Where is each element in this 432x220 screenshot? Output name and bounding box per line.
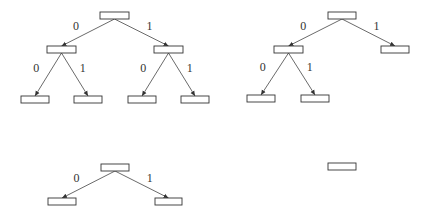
edge-label: 1: [307, 60, 313, 74]
edge-arrow-full-depth-2-tree-root-n1: [115, 19, 169, 46]
edge-arrow-partial-tree-root-n1: [342, 19, 395, 46]
edge-arrow-full-depth-2-tree-n1-n10: [142, 53, 169, 96]
edge-label: 0: [74, 171, 80, 185]
edge-arrow-partial-tree-root-n0: [289, 19, 343, 46]
tree-node-partial-tree-root: [328, 12, 356, 19]
tree-node-full-depth-2-tree-n10: [128, 96, 156, 103]
edge-label: 0: [73, 19, 79, 33]
tree-node-depth-1-tree-n0: [48, 198, 76, 205]
tree-node-partial-tree-n0: [274, 46, 303, 53]
edge-label: 1: [80, 61, 86, 75]
tree-node-depth-1-tree-root: [101, 164, 129, 171]
binary-trees-diagram: 010101010101: [0, 0, 432, 220]
edge-label: 0: [260, 60, 266, 74]
edge-arrow-depth-1-tree-root-n0: [62, 171, 115, 198]
tree-node-full-depth-2-tree-n0: [47, 46, 76, 53]
tree-node-full-depth-2-tree-n01: [74, 96, 102, 103]
edge-label: 0: [140, 61, 146, 75]
edge-arrow-full-depth-2-tree-n0-n00: [35, 53, 62, 96]
tree-node-full-depth-2-tree-root: [100, 12, 129, 19]
tree-node-partial-tree-n00: [247, 95, 275, 102]
edge-label: 1: [147, 171, 153, 185]
edge-arrow-full-depth-2-tree-n1-n11: [169, 53, 196, 96]
tree-node-partial-tree-n01: [301, 95, 329, 102]
edge-arrow-depth-1-tree-root-n1: [115, 171, 169, 198]
edge-arrow-full-depth-2-tree-root-n0: [62, 19, 115, 46]
edge-label: 1: [147, 19, 153, 33]
tree-node-depth-1-tree-n1: [155, 198, 182, 205]
edge-label: 0: [300, 19, 306, 33]
tree-node-full-depth-2-tree-n00: [21, 96, 49, 103]
edge-label: 1: [374, 19, 380, 33]
tree-node-single-node-tree-root: [328, 163, 356, 170]
tree-node-full-depth-2-tree-n11: [181, 96, 209, 103]
edge-arrow-full-depth-2-tree-n0-n01: [62, 53, 89, 96]
tree-node-partial-tree-n1: [381, 46, 409, 53]
tree-node-full-depth-2-tree-n1: [154, 46, 183, 53]
edge-label: 1: [187, 61, 193, 75]
edge-label: 0: [33, 61, 39, 75]
